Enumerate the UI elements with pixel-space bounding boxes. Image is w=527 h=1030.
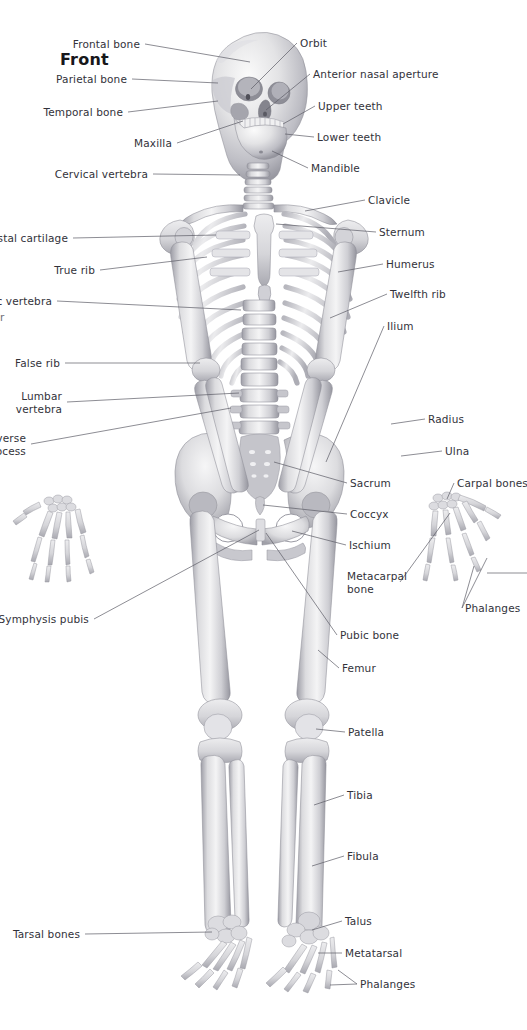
label-talus: Talus [345, 915, 372, 928]
leader-lower-teeth [285, 134, 314, 137]
leader-anterior-nasal-aperture [266, 74, 310, 110]
leader-femur [318, 650, 339, 668]
label-maxilla: Maxilla [134, 137, 172, 150]
label-fibula: Fibula [347, 850, 379, 863]
label-radius: Radius [428, 413, 464, 426]
leader-carpal-bones [447, 483, 454, 499]
leader-temporal-bone [128, 101, 218, 112]
leader-mandible [272, 151, 308, 168]
label-phalanges-hand: Phalanges [465, 602, 520, 615]
label-false-rib: False rib [15, 357, 60, 370]
leader-cervical-vertebra [153, 174, 240, 175]
label-costal-cartilage: Costal cartilage [0, 232, 68, 245]
leader-pubic-bone [266, 533, 337, 635]
label-ulna: Ulna [445, 445, 469, 458]
leader-frontal-bone [145, 44, 250, 62]
label-transverse-process: Transverse process [0, 432, 26, 457]
leader-orbit [251, 43, 297, 89]
label-tarsal-bones: Tarsal bones [13, 928, 80, 941]
label-lumbar-vertebra: Lumbar vertebra [16, 390, 62, 415]
leader-radius [391, 419, 425, 424]
leader-maxilla [177, 121, 243, 143]
leader-phalanges-foot [338, 970, 357, 984]
leader-costal-cartilage [73, 235, 216, 238]
leader-upper-teeth [283, 106, 315, 124]
label-sternum: Sternum [379, 226, 425, 239]
label-orbit: Orbit [300, 37, 327, 50]
leader-patella [316, 729, 345, 732]
leader-ilium [326, 326, 384, 462]
label-humerus: Humerus [386, 258, 435, 271]
leader-coccyx [263, 505, 347, 514]
leader-phalanges-hand-2 [462, 558, 487, 608]
skeleton-diagram: Front r Frontal boneParietal boneTempora… [0, 0, 527, 1030]
label-clavicle: Clavicle [368, 194, 410, 207]
cropped-edge-text: r [0, 311, 6, 323]
label-ischium: Ischium [349, 539, 391, 552]
leader-phalanges-foot-2 [330, 984, 357, 985]
label-mandible: Mandible [311, 162, 360, 175]
leader-sternum [276, 224, 376, 232]
leader-clavicle [305, 200, 365, 211]
leader-humerus [338, 264, 383, 272]
leader-talus [312, 921, 342, 930]
label-temporal-bone: Temporal bone [43, 106, 123, 119]
leader-thoracic-vertebra [57, 301, 241, 310]
label-phalanges-foot: Phalanges [360, 978, 415, 991]
leader-lumbar-vertebra [67, 393, 239, 402]
leader-lines [0, 0, 527, 1030]
label-metacarpal-bone: Metacarpal bone [347, 570, 407, 595]
label-tibia: Tibia [347, 789, 373, 802]
label-parietal-bone: Parietal bone [56, 73, 127, 86]
label-upper-teeth: Upper teeth [318, 100, 383, 113]
label-lower-teeth: Lower teeth [317, 131, 381, 144]
label-thoracic-vertebra: Thoracic vertebra [0, 295, 52, 308]
leader-parietal-bone [132, 79, 218, 83]
label-ilium: Ilium [387, 320, 414, 333]
leader-ischium [292, 531, 346, 545]
label-patella: Patella [348, 726, 384, 739]
label-cervical-vertebra: Cervical vertebra [55, 168, 148, 181]
label-carpal-bones: Carpal bones [457, 477, 527, 490]
label-anterior-nasal-aperture: Anterior nasal aperture [313, 68, 439, 81]
label-femur: Femur [342, 662, 376, 675]
leader-true-rib [100, 257, 207, 270]
label-sacrum: Sacrum [350, 477, 391, 490]
label-metatarsal: Metatarsal [345, 947, 402, 960]
figure-title: Front [60, 50, 109, 69]
leader-tibia [314, 795, 344, 805]
leader-tarsal-bones [85, 932, 212, 934]
label-frontal-bone: Frontal bone [73, 38, 140, 51]
leader-sacrum [274, 462, 347, 483]
leader-twelfth-rib [330, 294, 387, 318]
label-true-rib: True rib [54, 264, 95, 277]
leader-ulna [401, 451, 442, 456]
leader-symphysis-pubis [94, 530, 259, 619]
leader-metacarpal-bone [400, 513, 450, 582]
label-symphysis-pubis: Symphysis pubis [0, 613, 89, 626]
label-pubic-bone: Pubic bone [340, 629, 399, 642]
leader-fibula [312, 856, 344, 866]
label-coccyx: Coccyx [350, 508, 389, 521]
label-twelfth-rib: Twelfth rib [390, 288, 446, 301]
